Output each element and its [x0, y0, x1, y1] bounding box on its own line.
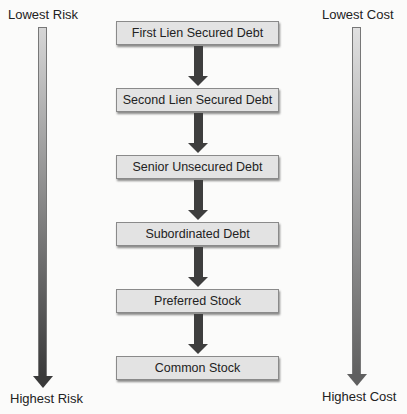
cost-arrowhead-icon — [347, 374, 367, 386]
down-arrow-icon — [191, 180, 206, 220]
highest-cost-label: Highest Cost — [322, 389, 396, 404]
down-arrow-icon — [191, 314, 206, 354]
flow-step-first-lien-secured-debt: First Lien Secured Debt — [116, 21, 279, 45]
down-arrow-icon — [191, 247, 206, 287]
cost-scale-bar — [352, 27, 361, 375]
lowest-cost-label: Lowest Cost — [322, 7, 394, 22]
highest-risk-label: Highest Risk — [10, 391, 83, 406]
flow-step-common-stock: Common Stock — [116, 356, 279, 380]
risk-arrowhead-icon — [33, 376, 53, 388]
flow-step-subordinated-debt: Subordinated Debt — [116, 222, 279, 246]
risk-scale-bar — [38, 27, 47, 377]
down-arrow-icon — [191, 46, 206, 86]
flow-step-senior-unsecured-debt: Senior Unsecured Debt — [116, 155, 279, 179]
flow-step-second-lien-secured-debt: Second Lien Secured Debt — [116, 88, 279, 112]
down-arrow-icon — [191, 113, 206, 153]
flow-step-preferred-stock: Preferred Stock — [116, 289, 279, 313]
lowest-risk-label: Lowest Risk — [8, 7, 78, 22]
